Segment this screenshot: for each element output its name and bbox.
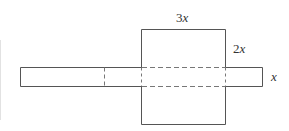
center-box — [142, 30, 226, 125]
label-top-3x: 3x — [176, 10, 189, 25]
diagram-canvas: 3x 2x x — [0, 0, 289, 131]
label-right-2x: 2x — [233, 41, 246, 56]
label-strip-x: x — [270, 69, 277, 84]
